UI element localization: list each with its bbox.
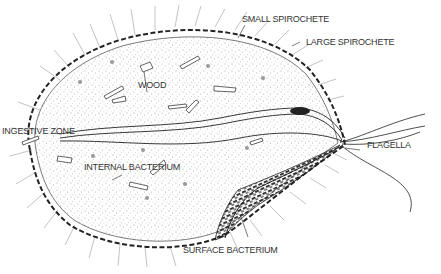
label-surface-bacterium: SURFACE BACTERIUM — [183, 245, 278, 255]
label-ingestive-zone: INGESTIVE ZONE — [2, 126, 75, 136]
label-flagella: FLAGELLA — [367, 140, 411, 150]
label-large-spirochete: LARGE SPIROCHETE — [306, 37, 394, 47]
label-wood: WOOD — [138, 80, 166, 90]
label-internal-bacterium: INTERNAL BACTERIUM — [84, 162, 180, 172]
flagella — [340, 114, 425, 212]
diagram-canvas: SMALL SPIROCHETE LARGE SPIROCHETE WOOD I… — [0, 0, 441, 274]
nucleus — [290, 107, 310, 115]
label-small-spirochete: SMALL SPIROCHETE — [242, 14, 329, 24]
